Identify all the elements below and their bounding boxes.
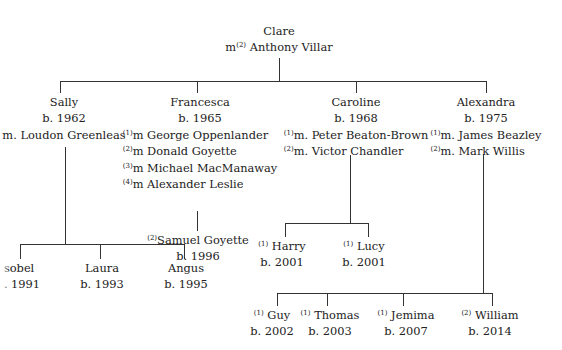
birth-year: b. 1968 xyxy=(284,110,429,126)
caroline-connector xyxy=(356,81,357,93)
lucy-connector xyxy=(368,223,369,237)
person-name: (2)Samuel Goyette xyxy=(147,232,249,248)
node-alexandra: Alexandra b. 1975 (1)m. James Beazley (2… xyxy=(430,94,541,160)
birth-year: b. 1975 xyxy=(430,110,541,126)
node-thomas: (1) Thomas b. 2003 xyxy=(301,307,360,340)
marriage: (3)m Michael MacManaway xyxy=(123,160,278,176)
marriage: (2)m Donald Goyette xyxy=(123,143,278,159)
thomas-connector xyxy=(327,293,328,306)
person-name: (2) William xyxy=(461,307,518,323)
marriage: m. Loudon Greenleas xyxy=(2,127,125,143)
person-name: Alexandra xyxy=(430,94,541,110)
marriage: (1)m. Peter Beaton-Brown xyxy=(284,127,429,143)
sally-connector xyxy=(60,81,61,93)
birth-year: b. 1995 xyxy=(164,276,208,292)
node-william: (2) William b. 2014 xyxy=(461,307,518,340)
node-lucy: (1) Lucy b. 2001 xyxy=(342,238,386,271)
left-edge-fade xyxy=(0,258,10,294)
person-name: Francesca xyxy=(123,94,278,110)
person-name: Caroline xyxy=(284,94,429,110)
person-name: (1) Harry xyxy=(258,238,306,254)
node-laura: Laura b. 1993 xyxy=(80,260,124,293)
jemima-connector xyxy=(403,293,404,306)
person-name: Laura xyxy=(80,260,124,276)
birth-year: b. 2002 xyxy=(250,323,294,339)
root-marriage: m(2) Anthony Villar xyxy=(225,39,332,55)
sally-stem-line xyxy=(65,147,66,244)
person-name: Sally xyxy=(2,94,125,110)
marriage-index: (2) xyxy=(236,41,246,49)
node-francesca: Francesca b. 1965 (1)m George Oppenlande… xyxy=(123,94,278,192)
node-harry: (1) Harry b. 2001 xyxy=(258,238,306,271)
birth-year: b. 1965 xyxy=(123,110,278,126)
family-tree: Clare m(2) Anthony Villar Sally b. 1962 … xyxy=(0,0,562,350)
node-samuel-goyette: (2)Samuel Goyette b. 1996 xyxy=(147,232,249,265)
person-name: (1) Guy xyxy=(250,307,294,323)
node-jemima: (1) Jemima b. 2007 xyxy=(378,307,435,340)
person-name: (1) Thomas xyxy=(301,307,360,323)
root-node-clare: Clare m(2) Anthony Villar xyxy=(225,23,332,56)
marriage: (1)m George Oppenlander xyxy=(123,127,278,143)
person-name: (1) Jemima xyxy=(378,307,435,323)
birth-year: b. 2001 xyxy=(342,254,386,270)
alexandra-connector xyxy=(486,81,487,93)
node-sally: Sally b. 1962 m. Loudon Greenleas xyxy=(2,94,125,143)
birth-year: b. 1993 xyxy=(80,276,124,292)
marriage: (4)m Alexander Leslie xyxy=(123,176,278,192)
birth-year: b. 1962 xyxy=(2,110,125,126)
guy-connector xyxy=(277,293,278,306)
root-name: Clare xyxy=(225,23,332,39)
person-name: (1) Lucy xyxy=(342,238,386,254)
root-stem-line xyxy=(279,58,280,81)
laura-connector xyxy=(100,244,101,259)
marriage: (1)m. James Beazley xyxy=(430,127,541,143)
node-caroline: Caroline b. 1968 (1)m. Peter Beaton-Brow… xyxy=(284,94,429,160)
harry-connector xyxy=(285,223,286,237)
isobel-connector xyxy=(20,244,21,259)
william-connector xyxy=(492,293,493,306)
birth-year: b. 1996 xyxy=(147,248,249,264)
caroline-stem-line xyxy=(350,155,351,223)
birth-year: b. 2007 xyxy=(378,323,435,339)
marriage: (2)m. Mark Willis xyxy=(430,143,541,159)
caroline-children-bar xyxy=(285,223,369,224)
marriage: (2)m. Victor Chandler xyxy=(284,143,429,159)
birth-year: b. 2001 xyxy=(258,254,306,270)
francesca-connector xyxy=(197,81,198,93)
node-angus: Angus b. 1995 xyxy=(164,260,208,293)
alexandra-children-bar xyxy=(277,293,493,294)
node-guy: (1) Guy b. 2002 xyxy=(250,307,294,340)
birth-year: b. 2014 xyxy=(461,323,518,339)
birth-year: b. 2003 xyxy=(301,323,360,339)
alexandra-stem-line xyxy=(483,154,484,293)
generation-1-bar xyxy=(60,81,487,82)
francesca-stem-line xyxy=(197,211,198,231)
